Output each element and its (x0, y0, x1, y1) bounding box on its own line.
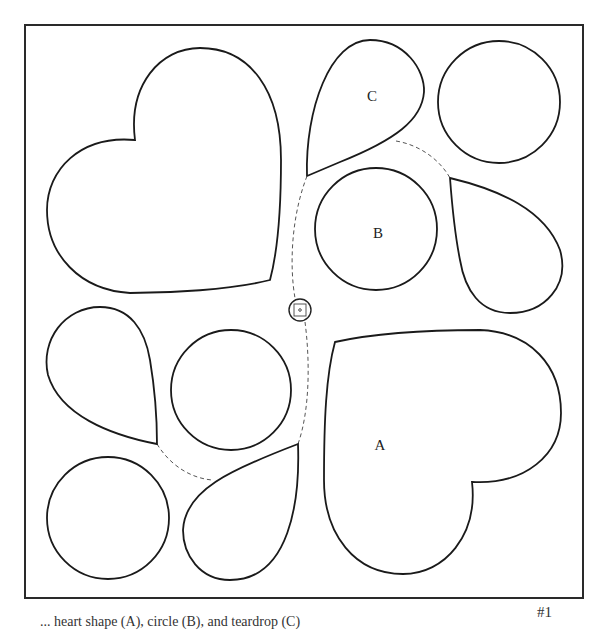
circle-shape-bottom-left (47, 457, 169, 579)
registration-mark-icon (289, 299, 311, 321)
circle-shape-middle-left (171, 330, 291, 450)
caption-text: ... heart shape (A), circle (B), and tea… (40, 614, 300, 630)
circle-shape-top-right (438, 41, 560, 163)
page-number: #1 (537, 604, 552, 621)
teardrop-shape-right (450, 178, 562, 313)
teardrop-shape-left (47, 307, 157, 444)
teardrop-shape-bottom (183, 444, 298, 580)
dashed-guide-line (292, 176, 307, 298)
label-b: B (373, 225, 383, 241)
dashed-guide-line (298, 322, 308, 444)
heart-shape-top-left (47, 48, 281, 293)
label-a: A (375, 437, 386, 453)
dashed-guide-line (157, 444, 212, 480)
dashed-guide-line (396, 141, 450, 178)
teardrop-shape-c (307, 40, 424, 176)
heart-shape-a (324, 330, 561, 574)
label-c: C (367, 88, 377, 104)
